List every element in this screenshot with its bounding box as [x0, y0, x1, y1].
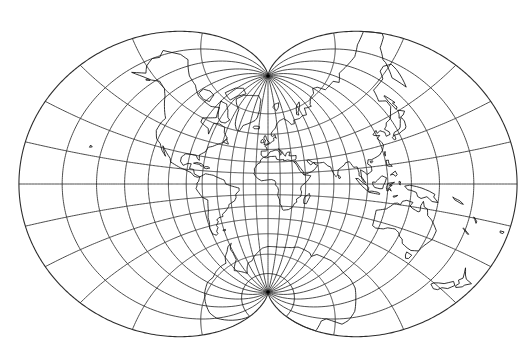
coastline-cuba: [194, 162, 205, 166]
coastline-hainan: [370, 161, 373, 163]
coastline-solomon-islands: [453, 197, 464, 204]
north-pole-marker: [266, 74, 270, 78]
coastline-new-zealand-south: [431, 281, 455, 289]
coastline-canadian-archipelago-victoria: [199, 89, 214, 102]
coastline-australia: [373, 200, 437, 251]
coastline-aleutians-kodiak: [146, 79, 150, 80]
graticule: [19, 33, 517, 335]
south-pole-marker: [266, 290, 270, 294]
coastline-hawaii: [89, 145, 92, 147]
coastline-fiji: [500, 231, 504, 234]
world-map: [0, 0, 530, 362]
coastline-falklands: [223, 229, 226, 230]
coastline-novaya-zemlya: [296, 102, 299, 115]
coastline-ireland: [261, 139, 264, 143]
coastline-new-zealand-north: [456, 268, 472, 288]
coastline-hispaniola: [204, 167, 210, 169]
coastline-newfoundland: [223, 139, 228, 145]
coastline-philippines-luzon: [386, 160, 392, 166]
coastline-java: [368, 191, 380, 194]
coastline-philippines-mindanao: [390, 171, 397, 176]
coastline-tasmania: [405, 252, 411, 259]
coastline-kyushu: [392, 135, 396, 140]
coastline-halmahera: [399, 181, 401, 185]
coastlines: [89, 31, 504, 330]
coastline-japan-hokkaido: [398, 110, 405, 118]
coastline-lesser-sundas-timor: [393, 195, 398, 197]
coastline-borneo: [373, 176, 387, 189]
coastline-taiwan: [384, 151, 385, 155]
coastline-antarctica: [205, 243, 356, 331]
coastline-sri-lanka: [338, 175, 340, 178]
coastline-new-guinea: [405, 185, 438, 202]
coastline-vanuatu: [474, 217, 477, 223]
